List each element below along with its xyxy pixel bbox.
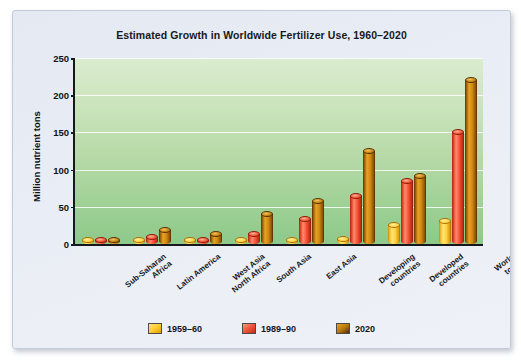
bar[interactable] bbox=[401, 178, 413, 244]
chart-figure: Estimated Growth in Worldwide Fertilizer… bbox=[12, 10, 511, 349]
bar[interactable] bbox=[108, 237, 120, 244]
bar[interactable] bbox=[261, 211, 273, 244]
bar-top-ellipse bbox=[197, 237, 209, 243]
bar-top-ellipse bbox=[350, 193, 362, 199]
y-axis-tick bbox=[71, 244, 75, 246]
bar[interactable] bbox=[133, 237, 145, 244]
bar-body bbox=[452, 132, 464, 244]
bar-top-ellipse bbox=[363, 148, 375, 154]
bar-top-ellipse bbox=[235, 237, 247, 243]
bar-body bbox=[465, 80, 477, 244]
bar-top-ellipse bbox=[401, 178, 413, 184]
bar-top-ellipse bbox=[108, 237, 120, 243]
bar[interactable] bbox=[388, 222, 400, 244]
bar[interactable] bbox=[95, 237, 107, 244]
bar[interactable] bbox=[337, 236, 349, 244]
bar-top-ellipse bbox=[299, 216, 311, 222]
bar-top-ellipse bbox=[133, 237, 145, 243]
bar[interactable] bbox=[248, 231, 260, 244]
bar-group bbox=[387, 173, 427, 244]
bar[interactable] bbox=[350, 193, 362, 244]
bar-body bbox=[261, 214, 273, 244]
bar-body bbox=[401, 181, 413, 244]
legend-label: 2020 bbox=[355, 324, 375, 334]
plot-wrapper: Million nutrient tons 050100150200250 Su… bbox=[13, 11, 510, 348]
y-axis-tick-label: 250 bbox=[53, 53, 69, 64]
x-axis-category-label: Developed countries bbox=[427, 252, 470, 291]
legend-swatch-1989-90-icon bbox=[242, 323, 256, 334]
bar[interactable] bbox=[146, 234, 158, 244]
bar-top-ellipse bbox=[248, 231, 260, 237]
bar-body bbox=[363, 151, 375, 244]
bar[interactable] bbox=[414, 173, 426, 244]
bar-top-ellipse bbox=[261, 211, 273, 217]
legend-item[interactable]: 2020 bbox=[336, 323, 375, 334]
bar[interactable] bbox=[439, 218, 451, 244]
bar-group bbox=[81, 237, 121, 244]
y-axis-tick bbox=[71, 132, 75, 134]
legend-item[interactable]: 1989–90 bbox=[242, 323, 296, 334]
bar-top-ellipse bbox=[95, 237, 107, 243]
legend-label: 1959–60 bbox=[167, 324, 202, 334]
plot-area: 050100150200250 bbox=[73, 58, 483, 246]
y-axis-tick-label: 100 bbox=[53, 164, 69, 175]
x-axis-category-label: South Asia bbox=[274, 252, 312, 285]
y-axis-tick bbox=[71, 207, 75, 209]
bar-top-ellipse bbox=[184, 237, 196, 243]
x-axis-category-label: West Asia North Africa bbox=[224, 252, 271, 294]
bar-body bbox=[350, 196, 362, 244]
bar-body bbox=[388, 225, 400, 244]
bar[interactable] bbox=[82, 237, 94, 244]
x-axis-category-label: East Asia bbox=[324, 252, 358, 281]
bar[interactable] bbox=[159, 227, 171, 244]
bar[interactable] bbox=[184, 237, 196, 244]
y-axis-tick-label: 50 bbox=[58, 201, 69, 212]
bar-group bbox=[438, 77, 478, 244]
y-axis-tick-label: 150 bbox=[53, 127, 69, 138]
legend-swatch-2020-icon bbox=[336, 323, 350, 334]
legend-swatch-1959-60-icon bbox=[148, 323, 162, 334]
x-axis-category-label: World total bbox=[478, 252, 511, 291]
bar-group bbox=[234, 211, 274, 244]
y-axis-tick bbox=[71, 95, 75, 97]
y-axis-tick-label: 0 bbox=[64, 239, 69, 250]
bar[interactable] bbox=[286, 237, 298, 244]
bar-body bbox=[312, 201, 324, 244]
bar[interactable] bbox=[197, 237, 209, 244]
y-axis-tick bbox=[71, 170, 75, 172]
bar-body bbox=[414, 176, 426, 244]
bar-group bbox=[285, 198, 325, 244]
y-axis-tick-label: 200 bbox=[53, 90, 69, 101]
gridline bbox=[75, 132, 483, 133]
bar-top-ellipse bbox=[337, 236, 349, 242]
legend-label: 1989–90 bbox=[261, 324, 296, 334]
y-axis-tick bbox=[71, 58, 75, 60]
bar[interactable] bbox=[363, 148, 375, 244]
x-axis-category-label: Latin America bbox=[175, 252, 222, 291]
bar[interactable] bbox=[312, 198, 324, 244]
legend-item[interactable]: 1959–60 bbox=[148, 323, 202, 334]
bar-top-ellipse bbox=[159, 227, 171, 233]
bar[interactable] bbox=[235, 237, 247, 244]
x-axis-category-label: Sub-Saharan Africa bbox=[123, 252, 173, 297]
bar-top-ellipse bbox=[286, 237, 298, 243]
gridline bbox=[75, 58, 483, 59]
chart-legend: 1959–60 1989–90 2020 bbox=[13, 323, 510, 334]
bar-group bbox=[132, 227, 172, 244]
bar-top-ellipse bbox=[439, 218, 451, 224]
bar-body bbox=[299, 219, 311, 244]
y-axis-label: Million nutrient tons bbox=[31, 87, 42, 227]
bar[interactable] bbox=[452, 129, 464, 244]
gridline bbox=[75, 170, 483, 171]
gridline bbox=[75, 95, 483, 96]
bar[interactable] bbox=[465, 77, 477, 244]
bar-body bbox=[439, 221, 451, 244]
x-axis-category-label: Developing countries bbox=[377, 252, 422, 293]
bar[interactable] bbox=[299, 216, 311, 244]
bar[interactable] bbox=[210, 231, 222, 244]
bar-top-ellipse bbox=[312, 198, 324, 204]
bar-group bbox=[336, 148, 376, 244]
bar-group bbox=[183, 231, 223, 244]
bar-top-ellipse bbox=[82, 237, 94, 243]
